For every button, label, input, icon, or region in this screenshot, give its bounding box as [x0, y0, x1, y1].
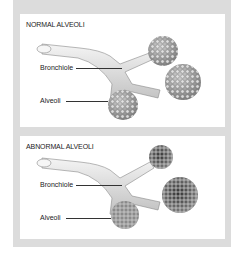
alveoli-leader-line	[66, 101, 108, 102]
bronchiole-leader-line	[76, 185, 122, 186]
panel-title: ABNORMAL ALVEOLI	[26, 143, 94, 150]
alveoli-label: Alveoli	[40, 97, 61, 104]
normal-alveoli-panel: NORMAL ALVEOLI Bronchiole Alveoli	[20, 14, 225, 127]
bronchiole-label: Bronchiole	[40, 64, 73, 71]
alveoli-leader-line	[66, 218, 111, 219]
panel-title: NORMAL ALVEOLI	[26, 21, 85, 28]
bronchiole-label: Bronchiole	[40, 181, 73, 188]
bronchiole-leader-line	[76, 68, 122, 69]
alveoli-label: Alveoli	[40, 214, 61, 221]
abnormal-alveoli-panel: ABNORMAL ALVEOLI Bronchiole Alveoli	[20, 136, 225, 239]
